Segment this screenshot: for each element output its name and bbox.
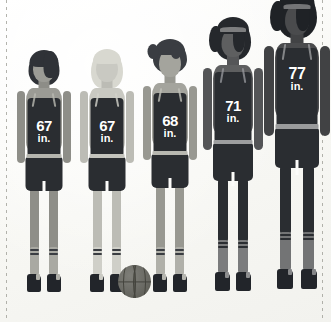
- hair-icon: [93, 49, 121, 64]
- height-value: 67: [99, 119, 115, 133]
- shoe-tongue-left: [162, 274, 166, 280]
- sock-stripe: [175, 249, 184, 251]
- sock-stripe: [238, 242, 248, 244]
- sock-stripe: [280, 238, 291, 240]
- waistband: [276, 124, 319, 129]
- leg-left: [156, 186, 165, 255]
- shoe-tongue-left: [36, 274, 40, 280]
- shoe-tongue-left: [99, 274, 103, 280]
- arm-left: [203, 68, 212, 150]
- leg-right: [49, 189, 58, 255]
- hair-side-left-icon: [270, 1, 284, 31]
- sock-stripe: [218, 242, 228, 244]
- height-unit: in.: [225, 113, 241, 124]
- sock-stripe: [156, 249, 165, 251]
- arm-right: [126, 91, 134, 163]
- height-value: 67: [36, 119, 52, 133]
- shoe-tongue-right: [182, 274, 186, 280]
- sock-left: [30, 247, 39, 275]
- hair-side-icon: [44, 51, 59, 78]
- legging-right: [303, 166, 314, 234]
- sock-stripe: [93, 253, 102, 255]
- leg-left: [93, 189, 102, 255]
- sock-right: [175, 247, 184, 275]
- sock-right: [112, 247, 121, 275]
- height-unit: in.: [162, 128, 178, 139]
- shorts-gap: [43, 181, 46, 192]
- height-label-3: 68 in.: [162, 114, 178, 139]
- arm-right: [189, 86, 197, 160]
- leggings-gap: [296, 160, 299, 175]
- sock-stripe: [303, 238, 314, 240]
- sock-stripe: [218, 246, 228, 248]
- waistband: [90, 154, 125, 158]
- player-figure-2[interactable]: 67 in.: [71, 35, 143, 300]
- leggings-gap: [232, 172, 235, 186]
- shorts-gap: [106, 181, 109, 192]
- height-label-4: 71 in.: [225, 99, 241, 124]
- leg-right: [175, 186, 184, 255]
- sock-stripe: [49, 253, 58, 255]
- waistband: [27, 154, 62, 158]
- height-unit: in.: [289, 81, 306, 92]
- sock-stripe: [112, 249, 121, 251]
- sock-stripe: [30, 253, 39, 255]
- arm-left: [17, 91, 25, 163]
- arm-right: [320, 46, 330, 136]
- height-label-2: 67 in.: [99, 119, 115, 144]
- shoe-tongue-left: [288, 269, 292, 275]
- height-unit: in.: [36, 133, 52, 144]
- player-figure-1[interactable]: 67 in.: [8, 35, 80, 300]
- sock-stripe: [156, 253, 165, 255]
- infographic-canvas: 67 in.: [0, 0, 331, 322]
- sock-stripe: [30, 249, 39, 251]
- height-value: 68: [162, 114, 178, 128]
- basketball-icon: [118, 265, 151, 298]
- arm-left: [264, 46, 274, 136]
- waistband: [214, 140, 253, 144]
- hair-curl-left-icon: [148, 44, 159, 59]
- shoe-tongue-right: [312, 269, 316, 275]
- sock-stripe: [93, 249, 102, 251]
- legging-left: [218, 179, 228, 242]
- shorts-gap: [169, 178, 172, 189]
- sock-stripe: [175, 253, 184, 255]
- sock-stripe: [238, 246, 248, 248]
- hair-curl-right-icon: [171, 44, 182, 59]
- shoe-tongue-left: [225, 272, 229, 278]
- player-figure-5[interactable]: 77 in.: [258, 0, 331, 300]
- height-label-1: 67 in.: [36, 119, 52, 144]
- sock-right: [49, 247, 58, 275]
- arm-left: [143, 86, 151, 160]
- sock-stripe: [303, 234, 314, 236]
- sock-stripe: [49, 249, 58, 251]
- sock-left: [218, 240, 228, 273]
- arm-right: [254, 68, 263, 150]
- sock-stripe: [280, 234, 291, 236]
- sock-stripe: [112, 253, 121, 255]
- shoe-tongue-right: [56, 274, 60, 280]
- height-unit: in.: [99, 133, 115, 144]
- headband-icon: [220, 27, 246, 32]
- height-value: 77: [289, 66, 306, 81]
- headband-icon: [284, 4, 311, 9]
- height-label-5: 77 in.: [289, 66, 306, 92]
- basketball-seam-curve-right: [133, 265, 146, 298]
- waistband: [153, 151, 188, 155]
- legging-left: [280, 166, 291, 234]
- arm-right: [63, 91, 71, 163]
- sock-left: [156, 247, 165, 275]
- leg-left: [30, 189, 39, 255]
- leg-right: [112, 189, 121, 255]
- arm-left: [80, 91, 88, 163]
- sock-right: [238, 240, 248, 273]
- sock-left: [93, 247, 102, 275]
- shoe-tongue-right: [246, 272, 250, 278]
- page-margin-left: [6, 0, 7, 322]
- legging-right: [238, 179, 248, 242]
- height-value: 71: [225, 99, 241, 113]
